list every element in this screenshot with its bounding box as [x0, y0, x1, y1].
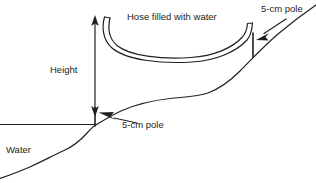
height-dimension-arrow — [91, 15, 99, 117]
diagram-canvas: Hose filled with water 5-cm pole Height … — [0, 0, 316, 183]
upper-leader-shaft — [264, 19, 286, 34]
hose-right-tip — [248, 23, 253, 24]
hose-inner-wall — [109, 18, 248, 58]
hose-left-tip — [105, 17, 111, 18]
upper-pole-leader-arrow — [256, 19, 286, 41]
hose-level-diagram: Hose filled with water 5-cm pole Height … — [0, 0, 316, 183]
water-label: Water — [6, 144, 31, 155]
hose-outer-wall — [103, 17, 252, 62]
upper-leader-arrow-head — [256, 33, 269, 41]
lower-pole-label: 5-cm pole — [122, 119, 164, 130]
hose-shape — [103, 17, 252, 62]
upper-pole-label: 5-cm pole — [261, 3, 303, 14]
hose-label: Hose filled with water — [127, 11, 217, 22]
height-label: Height — [50, 64, 78, 75]
